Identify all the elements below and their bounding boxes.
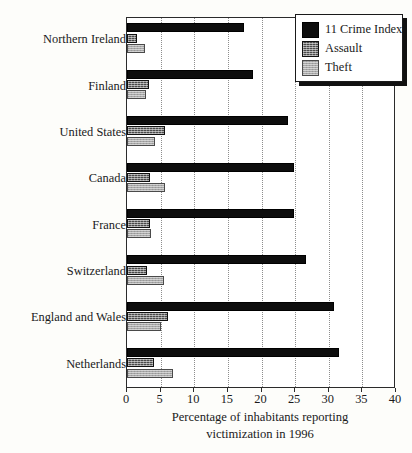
y-axis-label-finland: Finland <box>0 80 126 92</box>
x-tick-label-10: 10 <box>178 393 208 405</box>
x-axis-title-line-2: victimization in 1996 <box>110 426 410 443</box>
legend-item-11-crime-index: 11 Crime Index <box>302 20 397 39</box>
y-axis-label-northern-ireland: Northern Ireland <box>0 33 126 45</box>
legend-item-theft: Theft <box>302 58 397 77</box>
y-axis-label-france: France <box>0 219 126 231</box>
x-tick-label-20: 20 <box>246 393 276 405</box>
x-tick-label-25: 25 <box>279 393 309 405</box>
legend-item-assault: Assault <box>302 39 397 58</box>
legend-swatch-theft <box>302 60 319 76</box>
legend-label: Theft <box>325 61 352 73</box>
legend-label: 11 Crime Index <box>325 23 402 35</box>
bar-chart: Northern IrelandFinlandUnited StatesCana… <box>0 0 412 453</box>
x-axis-title: Percentage of inhabitants reportingvicti… <box>110 409 410 442</box>
x-tick-label-40: 40 <box>380 393 410 405</box>
legend-swatch-assault <box>302 41 319 57</box>
x-axis-title-line-1: Percentage of inhabitants reporting <box>110 409 410 426</box>
y-axis-label-canada: Canada <box>0 172 126 184</box>
x-tick-label-35: 35 <box>346 393 376 405</box>
y-axis-label-switzerland: Switzerland <box>0 265 126 277</box>
y-axis-label-netherlands: Netherlands <box>0 358 126 370</box>
x-tick-label-5: 5 <box>145 393 175 405</box>
legend: 11 Crime IndexAssaultTheft <box>295 14 403 82</box>
x-tick-label-15: 15 <box>212 393 242 405</box>
legend-swatch-crime <box>302 22 319 38</box>
legend-label: Assault <box>325 42 362 54</box>
y-axis-label-united-states: United States <box>0 126 126 138</box>
x-tick-label-30: 30 <box>313 393 343 405</box>
x-tick-label-0: 0 <box>111 393 141 405</box>
y-axis-label-england-and-wales: England and Wales <box>0 311 126 323</box>
